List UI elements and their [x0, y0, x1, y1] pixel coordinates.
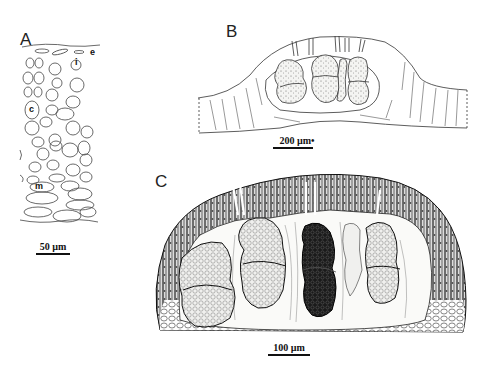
scale-bar-b-label: 200 µm [279, 135, 311, 146]
scale-bar-c-line [268, 354, 310, 356]
scale-bar-b-marker: • [311, 135, 315, 146]
figure-canvas [0, 0, 490, 378]
scale-bar-a-label: 50 µm [40, 241, 67, 252]
panel-label-a: A [20, 30, 31, 50]
annotation-e: e [90, 47, 95, 57]
scale-bar-c-label: 100 µm [273, 342, 305, 353]
annotation-i: i [75, 57, 78, 67]
panel-label-b: B [226, 22, 237, 42]
panel-c-drawing [156, 174, 466, 332]
scale-bar-c: 100 µm [268, 342, 310, 356]
panel-a-drawing [20, 44, 100, 222]
annotation-m: m [35, 181, 43, 191]
panel-b-drawing [198, 36, 467, 133]
panel-label-c: C [155, 172, 167, 192]
scale-bar-b-line [273, 147, 313, 149]
scale-bar-b: 200 µm• [273, 135, 321, 149]
annotation-c: c [29, 104, 34, 114]
scale-bar-a-line [36, 253, 70, 255]
scale-bar-a: 50 µm [36, 241, 70, 255]
